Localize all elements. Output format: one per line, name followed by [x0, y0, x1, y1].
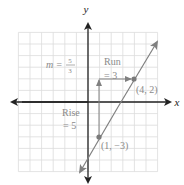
point-label-1-neg3: (1, −3)	[101, 140, 128, 152]
slope-numerator: 5	[68, 57, 72, 65]
slope-label-prefix: m =	[46, 59, 62, 70]
point-4-2	[131, 76, 136, 81]
run-label-line2: = 3	[104, 70, 117, 81]
rise-label-line2: = 5	[63, 120, 76, 131]
slope-diagram: y x m = 5 3 Run = 3 Rise = 5 (4, 2) (1, …	[0, 0, 184, 185]
y-axis-label: y	[83, 3, 89, 15]
x-axis-label: x	[174, 96, 180, 108]
rise-label-line1: Rise	[62, 107, 80, 118]
slope-denominator: 3	[68, 67, 72, 75]
point-label-4-2: (4, 2)	[136, 84, 158, 96]
graphed-line	[118, 42, 157, 107]
run-label-line1: Run	[104, 56, 121, 67]
coordinate-plane: y x m = 5 3 Run = 3 Rise = 5 (4, 2) (1, …	[0, 0, 184, 185]
point-1-neg3	[96, 134, 101, 139]
